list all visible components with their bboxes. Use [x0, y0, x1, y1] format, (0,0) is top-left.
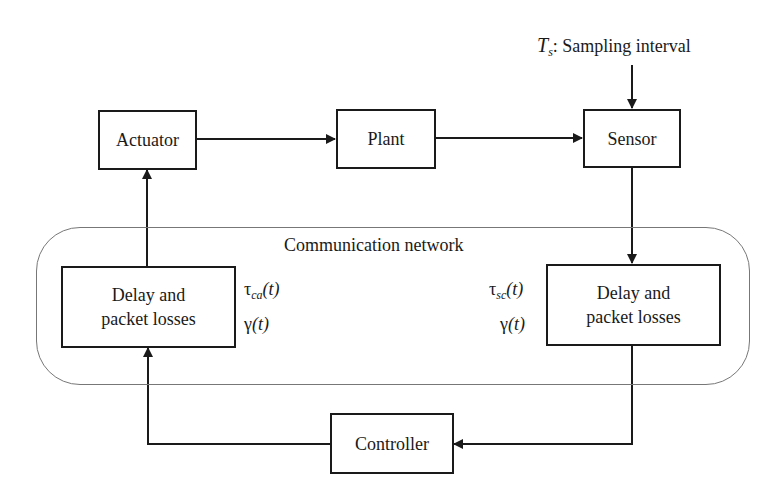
actuator-label: Actuator: [116, 128, 179, 152]
controller-label: Controller: [355, 432, 429, 456]
network-label: Communication network: [284, 235, 463, 256]
gamma-symbol: γ: [244, 314, 252, 334]
tau-ca-subscript: ca: [251, 288, 262, 302]
tau-sc-label: τsc(t): [489, 279, 523, 300]
sensor-label: Sensor: [608, 127, 657, 151]
plant-block: Plant: [336, 109, 436, 169]
tau-sc-arg: (t): [506, 279, 523, 299]
sampling-text: : Sampling interval: [553, 36, 691, 56]
plant-label: Plant: [367, 127, 404, 151]
sampling-interval-label: Ts: Sampling interval: [537, 34, 691, 57]
gamma-left-arg: (t): [252, 314, 269, 334]
sensor-block: Sensor: [583, 109, 681, 168]
gamma-symbol: γ: [500, 314, 508, 334]
delay-packet-loss-ca-block: Delay and packet losses: [61, 266, 236, 348]
tau-ca-arg: (t): [263, 279, 280, 299]
gamma-right-arg: (t): [508, 314, 525, 334]
delay-sc-line1: Delay and: [597, 281, 670, 305]
delay-ca-line2: packet losses: [101, 307, 195, 331]
delay-packet-loss-sc-block: Delay and packet losses: [546, 264, 721, 346]
tau-sc-subscript: sc: [496, 288, 506, 302]
tau-ca-label: τca(t): [244, 279, 280, 300]
controller-block: Controller: [330, 413, 454, 474]
gamma-left-label: γ(t): [244, 314, 269, 335]
gamma-right-label: γ(t): [500, 314, 525, 335]
delay-ca-line1: Delay and: [112, 283, 185, 307]
actuator-block: Actuator: [98, 110, 197, 170]
sampling-symbol: T: [537, 34, 548, 56]
delay-sc-line2: packet losses: [586, 305, 680, 329]
